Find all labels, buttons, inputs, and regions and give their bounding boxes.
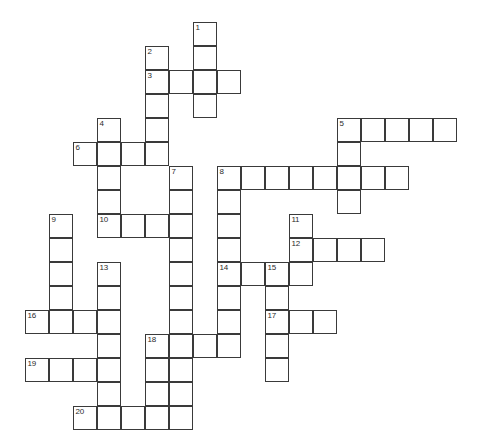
grid-cell[interactable] — [121, 214, 145, 238]
grid-cell[interactable] — [169, 262, 193, 286]
grid-cell[interactable] — [169, 334, 193, 358]
cell-number-label: 1 — [196, 23, 200, 33]
grid-cell[interactable] — [361, 166, 385, 190]
grid-cell[interactable] — [49, 310, 73, 334]
grid-cell[interactable] — [313, 238, 337, 262]
crossword-puzzle-grid[interactable]: 1234567891011121314151617181920 — [0, 0, 482, 448]
grid-cell[interactable] — [289, 310, 313, 334]
grid-cell[interactable] — [169, 310, 193, 334]
grid-cell[interactable] — [121, 142, 145, 166]
grid-cell-numbered-14[interactable]: 14 — [217, 262, 241, 286]
grid-cell[interactable] — [241, 166, 265, 190]
grid-cell[interactable] — [217, 70, 241, 94]
grid-cell[interactable] — [193, 334, 217, 358]
grid-cell[interactable] — [169, 70, 193, 94]
grid-cell[interactable] — [169, 238, 193, 262]
grid-cell-numbered-11[interactable]: 11 — [289, 214, 313, 238]
grid-cell[interactable] — [145, 358, 169, 382]
grid-cell[interactable] — [361, 238, 385, 262]
grid-cell[interactable] — [97, 382, 121, 406]
cell-number-label: 11 — [292, 215, 300, 225]
grid-cell[interactable] — [97, 166, 121, 190]
grid-cell[interactable] — [121, 406, 145, 430]
grid-cell[interactable] — [313, 166, 337, 190]
grid-cell[interactable] — [241, 262, 265, 286]
grid-cell[interactable] — [193, 46, 217, 70]
grid-cell[interactable] — [169, 358, 193, 382]
grid-cell[interactable] — [169, 190, 193, 214]
grid-cell[interactable] — [265, 166, 289, 190]
grid-cell-numbered-1[interactable]: 1 — [193, 22, 217, 46]
grid-cell[interactable] — [97, 334, 121, 358]
grid-cell[interactable] — [337, 142, 361, 166]
grid-cell[interactable] — [337, 238, 361, 262]
grid-cell-numbered-2[interactable]: 2 — [145, 46, 169, 70]
grid-cell[interactable] — [145, 142, 169, 166]
grid-cell[interactable] — [361, 118, 385, 142]
grid-cell[interactable] — [337, 190, 361, 214]
grid-cell[interactable] — [97, 142, 121, 166]
grid-cell-numbered-15[interactable]: 15 — [265, 262, 289, 286]
grid-cell[interactable] — [217, 334, 241, 358]
grid-cell[interactable] — [265, 286, 289, 310]
grid-cell[interactable] — [145, 118, 169, 142]
grid-cell[interactable] — [265, 334, 289, 358]
cell-number-label: 5 — [340, 119, 344, 129]
cell-number-label: 8 — [220, 167, 224, 177]
grid-cell[interactable] — [385, 118, 409, 142]
grid-cell[interactable] — [217, 190, 241, 214]
grid-cell[interactable] — [49, 262, 73, 286]
grid-cell[interactable] — [217, 238, 241, 262]
grid-cell[interactable] — [145, 94, 169, 118]
grid-cell[interactable] — [49, 238, 73, 262]
grid-cell-numbered-17[interactable]: 17 — [265, 310, 289, 334]
grid-cell-numbered-5[interactable]: 5 — [337, 118, 361, 142]
grid-cell-numbered-13[interactable]: 13 — [97, 262, 121, 286]
grid-cell[interactable] — [97, 286, 121, 310]
cell-number-label: 14 — [220, 263, 228, 273]
grid-cell-numbered-10[interactable]: 10 — [97, 214, 121, 238]
grid-cell[interactable] — [337, 166, 361, 190]
grid-cell[interactable] — [385, 166, 409, 190]
grid-cell[interactable] — [193, 70, 217, 94]
grid-cell[interactable] — [313, 310, 337, 334]
grid-cell[interactable] — [49, 358, 73, 382]
grid-cell[interactable] — [169, 382, 193, 406]
grid-cell[interactable] — [97, 406, 121, 430]
grid-cell-numbered-6[interactable]: 6 — [73, 142, 97, 166]
grid-cell[interactable] — [73, 310, 97, 334]
grid-cell[interactable] — [49, 286, 73, 310]
grid-cell[interactable] — [289, 262, 313, 286]
grid-cell[interactable] — [97, 190, 121, 214]
grid-cell-numbered-12[interactable]: 12 — [289, 238, 313, 262]
grid-cell[interactable] — [409, 118, 433, 142]
grid-cell[interactable] — [217, 310, 241, 334]
grid-cell[interactable] — [217, 214, 241, 238]
grid-cell[interactable] — [169, 286, 193, 310]
grid-cell-numbered-3[interactable]: 3 — [145, 70, 169, 94]
grid-cell-numbered-20[interactable]: 20 — [73, 406, 97, 430]
grid-cell-numbered-18[interactable]: 18 — [145, 334, 169, 358]
grid-cell[interactable] — [97, 310, 121, 334]
grid-cell-numbered-9[interactable]: 9 — [49, 214, 73, 238]
cell-number-label: 2 — [148, 47, 152, 57]
grid-cell-numbered-7[interactable]: 7 — [169, 166, 193, 190]
cell-number-label: 12 — [292, 239, 300, 249]
grid-cell[interactable] — [433, 118, 457, 142]
grid-cell[interactable] — [265, 358, 289, 382]
grid-cell[interactable] — [97, 358, 121, 382]
grid-cell[interactable] — [73, 358, 97, 382]
grid-cell-numbered-8[interactable]: 8 — [217, 166, 241, 190]
cell-number-label: 19 — [28, 359, 36, 369]
grid-cell[interactable] — [289, 166, 313, 190]
grid-cell-numbered-16[interactable]: 16 — [25, 310, 49, 334]
grid-cell[interactable] — [145, 406, 169, 430]
grid-cell-numbered-19[interactable]: 19 — [25, 358, 49, 382]
grid-cell[interactable] — [193, 94, 217, 118]
grid-cell[interactable] — [169, 214, 193, 238]
grid-cell[interactable] — [145, 214, 169, 238]
grid-cell[interactable] — [217, 286, 241, 310]
grid-cell[interactable] — [145, 382, 169, 406]
grid-cell[interactable] — [169, 406, 193, 430]
grid-cell-numbered-4[interactable]: 4 — [97, 118, 121, 142]
